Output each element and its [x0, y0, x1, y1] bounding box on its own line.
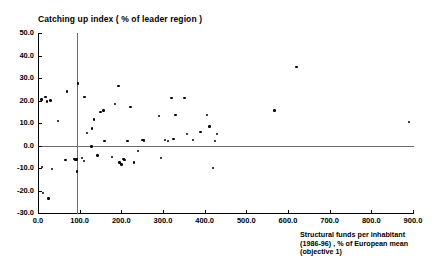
data-point [64, 159, 66, 161]
y-tick-label: -20.0 [0, 186, 34, 196]
x-tick [80, 210, 81, 214]
x-tick [330, 210, 331, 214]
data-point [47, 197, 49, 199]
data-point [408, 121, 410, 123]
data-point [111, 156, 113, 158]
y-tick-label-text: 0.0 [24, 141, 34, 150]
x-tick-label: 200.0 [112, 216, 131, 225]
y-tick-label-text: 40.0 [19, 51, 34, 60]
y-tick [38, 78, 42, 79]
data-point [77, 82, 79, 84]
data-point [44, 96, 46, 98]
x-tick-label: 900.0 [404, 216, 423, 225]
data-point [123, 159, 125, 161]
data-point [76, 170, 78, 172]
x-axis-label: Structural funds per inhabitant (1986-96… [300, 231, 408, 257]
y-tick-label-text: -20.0 [17, 186, 34, 195]
data-point [192, 139, 194, 141]
x-tick-label: 500.0 [237, 216, 256, 225]
y-tick-label: -10.0 [0, 163, 34, 173]
data-point [273, 109, 275, 111]
data-point [49, 99, 51, 101]
data-point [40, 98, 42, 100]
y-tick [38, 146, 42, 147]
data-point [51, 168, 53, 170]
x-tick-label: 0.0 [33, 216, 43, 225]
data-point [41, 166, 43, 168]
data-point [174, 114, 176, 116]
y-tick [38, 123, 42, 124]
y-tick-label: 10.0 [0, 118, 34, 128]
x-tick [246, 210, 247, 214]
y-tick [38, 33, 42, 34]
data-point [126, 140, 128, 142]
x-tick [121, 210, 122, 214]
data-point [81, 157, 83, 159]
data-point [164, 139, 166, 141]
data-point [160, 157, 162, 159]
x-tick-label: 100.0 [70, 216, 89, 225]
reference-line-zero-horizontal [38, 146, 414, 147]
y-tick-label: 30.0 [0, 73, 34, 83]
data-point [90, 145, 92, 147]
data-point [120, 163, 122, 165]
data-point [75, 158, 77, 160]
chart-title: Catching up index ( % of leader region ) [38, 14, 202, 24]
data-point [102, 109, 104, 111]
x-tick [163, 210, 164, 214]
x-tick-label: 600.0 [279, 216, 298, 225]
data-point [214, 140, 216, 142]
data-point [66, 90, 68, 92]
data-point [172, 138, 174, 140]
data-point [137, 150, 139, 152]
scatter-chart: Catching up index ( % of leader region )… [0, 0, 435, 265]
data-point [186, 133, 188, 135]
data-point [129, 106, 131, 108]
y-tick-label-text: -10.0 [17, 163, 34, 172]
x-tick [288, 210, 289, 214]
data-point [206, 114, 208, 116]
data-point [170, 97, 172, 99]
data-point [295, 66, 297, 68]
data-point [208, 125, 210, 127]
x-tick [205, 210, 206, 214]
data-point [83, 96, 85, 98]
x-tick-label: 700.0 [320, 216, 339, 225]
y-tick-label-text: 20.0 [19, 96, 34, 105]
y-tick-label: 20.0 [0, 96, 34, 106]
y-tick-label: 40.0 [0, 51, 34, 61]
y-tick-label: -30.0 [0, 208, 34, 218]
data-point [86, 132, 88, 134]
data-point [103, 140, 105, 142]
data-point [46, 100, 48, 102]
y-tick-label: 50.0 [0, 28, 34, 38]
data-point [91, 127, 93, 129]
y-tick-label-text: 50.0 [19, 28, 34, 37]
data-point [216, 133, 218, 135]
x-axis-line [38, 213, 414, 214]
x-tick [371, 210, 372, 214]
y-tick-label: 0.0 [0, 141, 34, 151]
y-tick-label-text: 10.0 [19, 118, 34, 127]
data-point [183, 97, 185, 99]
x-tick-label: 300.0 [154, 216, 173, 225]
data-point [114, 103, 116, 105]
reference-line-vertical-marker [77, 33, 78, 214]
y-tick [38, 101, 42, 102]
x-tick [38, 210, 39, 214]
data-point [167, 140, 169, 142]
x-tick-label: 400.0 [195, 216, 214, 225]
data-point [96, 154, 98, 156]
y-tick-label-text: 30.0 [19, 73, 34, 82]
data-point [212, 167, 214, 169]
data-point [143, 140, 145, 142]
data-point [83, 160, 85, 162]
data-point [117, 85, 119, 87]
data-point [42, 192, 44, 194]
y-tick-label-text: -30.0 [17, 208, 34, 217]
data-point [199, 131, 201, 133]
x-tick [413, 210, 414, 214]
y-tick [38, 168, 42, 169]
data-point [57, 120, 59, 122]
data-point [93, 118, 95, 120]
